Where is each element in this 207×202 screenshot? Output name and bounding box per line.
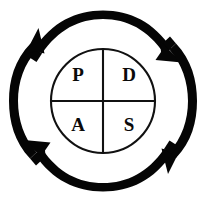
arc-bottom-body	[35, 149, 172, 192]
quadrant-label-act: A	[71, 114, 85, 135]
quadrant-label-plan: P	[72, 64, 84, 85]
quadrant-label-do: D	[122, 64, 136, 85]
arc-top-body	[35, 11, 172, 54]
pdsa-diagram-svg: P D A S	[0, 0, 207, 202]
quadrant-label-study: S	[124, 114, 135, 135]
pdsa-cycle-figure: P D A S	[0, 0, 207, 202]
arc-left-arrowhead	[25, 28, 45, 55]
